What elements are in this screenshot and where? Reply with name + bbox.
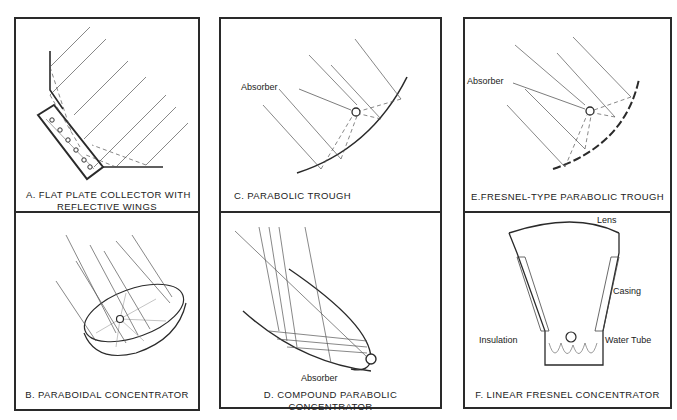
insulation-label: Insulation <box>479 335 518 345</box>
absorber-label-e: Absorber <box>467 76 504 86</box>
casing-label: Casing <box>613 286 641 296</box>
lens-label: Lens <box>597 215 617 225</box>
parabolic-trough-diagram <box>221 19 444 215</box>
caption-a-line1: A. FLAT PLATE COLLECTOR WITH <box>26 189 198 201</box>
fresnel-parabolic-trough-diagram <box>465 19 674 215</box>
water-tube-label: Water Tube <box>605 335 651 345</box>
panel-c-parabolic-trough: Absorber C. PARABOLIC TROUGH <box>219 17 442 213</box>
caption-e: E.FRESNEL-TYPE PARABOLIC TROUGH <box>465 191 670 203</box>
caption-f: F. LINEAR FRESNEL CONCENTRATOR <box>465 389 670 401</box>
linear-fresnel-concentrator-diagram <box>465 213 674 411</box>
panel-e-fresnel-parabolic-trough: Absorber E.FRESNEL-TYPE PARABOLIC TROUGH <box>463 17 672 213</box>
caption-b: B. PARABOIDAL CONCENTRATOR <box>16 389 198 401</box>
caption-c: C. PARABOLIC TROUGH <box>234 190 440 202</box>
absorber-label-c: Absorber <box>241 82 278 92</box>
panel-b-paraboidal-concentrator: B. PARABOIDAL CONCENTRATOR <box>14 211 200 411</box>
panel-f-linear-fresnel-concentrator: Lens Casing Insulation Water Tube F. LIN… <box>463 211 672 409</box>
paraboidal-concentrator-diagram <box>16 213 202 413</box>
caption-d: D. COMPOUND PARABOLIC CONCENTRATOR <box>221 389 440 413</box>
flat-plate-collector-diagram <box>16 19 202 215</box>
panel-d-compound-parabolic-concentrator: Absorber D. COMPOUND PARABOLIC CONCENTRA… <box>219 211 442 409</box>
panel-a-flat-plate-collector: A. FLAT PLATE COLLECTOR WITH REFLECTIVE … <box>14 17 200 213</box>
absorber-label-d: Absorber <box>301 373 338 383</box>
